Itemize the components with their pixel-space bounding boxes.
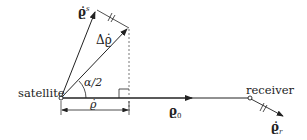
label-angle: α/2 (84, 76, 102, 89)
label-receiver: receiver (246, 83, 295, 97)
label-rho-0: ϱ0 (169, 104, 181, 120)
label-range-rate: ϱ̇ (90, 98, 97, 111)
right-angle-marker (119, 89, 129, 98)
label-delta-rho-dot: Δϱ̇ (96, 33, 112, 47)
label-satellite-velocity: ϱ̇s (78, 5, 90, 19)
receiver-velocity-vector (251, 99, 283, 116)
parallel-mark-1 (108, 13, 112, 21)
label-receiver-velocity: ϱ̇r (271, 120, 283, 136)
vector-diagram: ϱ̇s Δϱ̇ α/2 satellite receiver ϱ0 ϱ̇r ϱ̇ (0, 0, 307, 140)
label-satellite: satellite (18, 86, 65, 100)
